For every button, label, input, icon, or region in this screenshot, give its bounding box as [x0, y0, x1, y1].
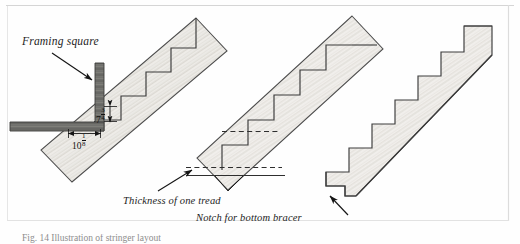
figure-caption: Fig. 14 Illustration of stringer layout: [22, 234, 161, 244]
dimension-label-riser: 734: [96, 110, 105, 126]
label-thickness-of-one-tread: Thickness of one tread: [123, 196, 221, 207]
dimension-label-tread: 1018: [72, 136, 86, 152]
figure-container: Framing square Thickness of one tread No…: [0, 0, 520, 244]
riser-fraction: 34: [101, 110, 105, 125]
leader-notch-bracer: [330, 196, 348, 215]
leader-thickness-tread: [158, 170, 192, 191]
tread-fraction: 18: [82, 136, 86, 151]
label-framing-square: Framing square: [22, 36, 99, 48]
tread-whole-number: 10: [72, 141, 82, 151]
leader-framing-square: [52, 53, 92, 80]
riser-whole-number: 7: [96, 115, 101, 125]
label-notch-for-bottom-bracer: Notch for bottom bracer: [196, 213, 302, 224]
